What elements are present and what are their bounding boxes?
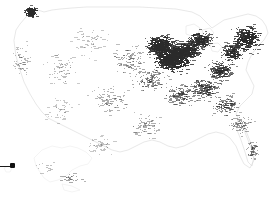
contiguous-us-outline (14, 7, 268, 168)
florida-outline (237, 120, 254, 166)
great-lakes (186, 24, 222, 52)
hawaii-callout-marker[interactable] (10, 163, 15, 168)
alaska-inset-outline (34, 146, 92, 192)
map-canvas[interactable] (0, 0, 278, 213)
map-outline-svg (0, 0, 278, 213)
